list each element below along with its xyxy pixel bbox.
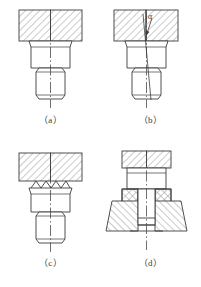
panel-b-drawing: α	[100, 0, 201, 113]
caption-b: （b）	[100, 113, 201, 126]
panel-d	[100, 143, 201, 256]
panel-c-drawing	[0, 143, 101, 256]
panel-d-drawing	[100, 143, 201, 256]
die-block-b	[114, 10, 178, 41]
panel-b: α	[100, 0, 201, 113]
caption-c: （c）	[0, 256, 101, 269]
figure-container: （a）	[0, 0, 201, 287]
caption-a: （a）	[0, 113, 101, 126]
panel-a	[0, 0, 101, 113]
panel-a-drawing	[0, 0, 101, 113]
caption-d: （d）	[100, 256, 201, 269]
panel-c	[0, 143, 101, 256]
